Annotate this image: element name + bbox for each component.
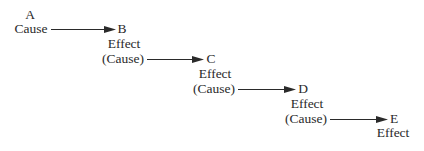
- arrow-a-to-b: [51, 26, 116, 33]
- node-a-role-cause: Cause: [15, 22, 48, 36]
- node-c-role-effect: Effect: [199, 67, 232, 81]
- node-e-letter: E: [390, 112, 398, 126]
- arrow-c-to-d: [238, 86, 296, 93]
- node-b-letter: B: [117, 22, 126, 36]
- node-d-role-cause: (Cause): [285, 112, 327, 126]
- node-b-role-effect: Effect: [108, 37, 141, 51]
- node-c-role-cause: (Cause): [193, 82, 235, 96]
- node-d-role-effect: Effect: [291, 97, 324, 111]
- node-b-role-cause: (Cause): [102, 52, 144, 66]
- arrow-b-to-c: [147, 56, 204, 63]
- arrow-d-to-e: [330, 116, 388, 123]
- node-c-letter: C: [206, 52, 215, 66]
- node-e-role-effect: Effect: [377, 126, 410, 140]
- node-d-letter: D: [298, 82, 308, 96]
- node-a-letter: A: [25, 8, 35, 22]
